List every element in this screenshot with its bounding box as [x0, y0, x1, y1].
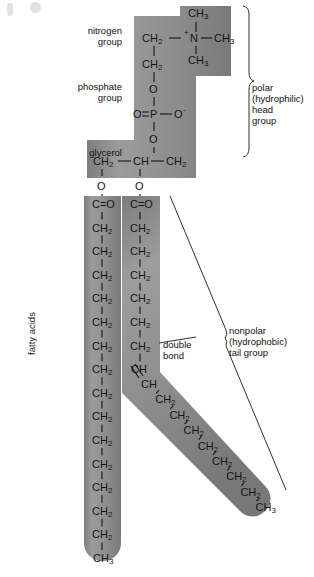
chain-unit-carbonyl: C=O [130, 198, 153, 210]
label-nonpolar-line3: tail group [229, 347, 287, 358]
label-fatty-acids-text: fatty acids [26, 312, 37, 355]
phosphate-o-top-label: O [149, 83, 158, 95]
glycerol-o1-label: O [97, 180, 106, 192]
figure-canvas: CH3 CH2 + N CH3 CH3 CH2 O O P O - O [0, 0, 314, 577]
label-phosphate-group-line1: phosphate [12, 81, 122, 92]
chain-unit-double-bond-carbon-bottom: CH [141, 378, 157, 390]
label-nitrogen-group-line2: group [12, 36, 122, 47]
glycerol-o2-label: O [135, 180, 144, 192]
phosphate-o-bottom-label: O [149, 133, 158, 145]
phosphate-o-left-label: O [133, 108, 142, 120]
nitrogen-charge-label: + [184, 28, 189, 37]
label-nonpolar-line1: nonpolar [229, 325, 287, 336]
label-double-bond-line1: double [163, 339, 192, 350]
glycerol-c2-label: CH [133, 155, 149, 167]
chain-unit-terminal-ch3: CH3 [256, 501, 277, 515]
label-polar-line3: head [252, 104, 304, 115]
label-phosphate-group: phosphate group [12, 81, 122, 103]
label-glycerol: glycerol [12, 147, 122, 158]
label-glycerol-text: glycerol [12, 147, 122, 158]
label-polar-line1: polar [252, 82, 304, 93]
label-polar-head-group: polar (hydrophilic) head group [252, 82, 304, 126]
label-double-bond-line2: bond [163, 350, 192, 361]
label-polar-line2: (hydrophilic) [252, 93, 304, 104]
label-polar-line4: group [252, 115, 304, 126]
methyl-right-label: CH3 [214, 32, 235, 46]
label-nonpolar-line2: (hydrophobic) [229, 336, 287, 347]
phosphorus-atom-label: P [150, 108, 157, 120]
unsaturated-fatty-acid-chain-diagonal: CHCH2CH2CH2CH2CH2CH2CH2CH3 [141, 378, 276, 515]
phosphate-charge-label: - [183, 105, 186, 114]
label-nonpolar-tail-group: nonpolar (hydrophobic) tail group [229, 325, 287, 358]
label-double-bond: double bond [163, 339, 192, 361]
label-phosphate-group-line2: group [12, 92, 122, 103]
label-nitrogen-group-line1: nitrogen [12, 25, 122, 36]
label-fatty-acids: fatty acids [26, 296, 37, 372]
chain-unit-carbonyl: C=O [92, 198, 115, 210]
nitrogen-atom-label: N [190, 32, 198, 44]
phosphate-o-right-label: O [174, 108, 183, 120]
label-nitrogen-group: nitrogen group [12, 25, 122, 47]
